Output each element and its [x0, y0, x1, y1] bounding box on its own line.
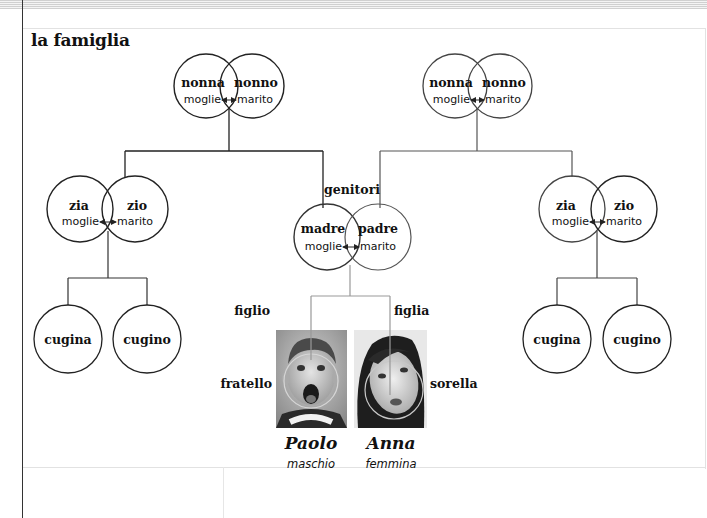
cugino-label: cugino: [123, 332, 171, 347]
padre-circle: [345, 204, 411, 270]
cugino-label: cugino: [613, 332, 661, 347]
moglie-label: moglie: [433, 93, 471, 106]
paolo-name: Paolo: [284, 433, 337, 453]
grandparents-left-couple: nonna nonno moglie marito: [174, 54, 284, 118]
fratello-label: fratello: [220, 376, 272, 391]
cugina-label: cugina: [533, 332, 580, 347]
zio-label: zio: [614, 198, 634, 213]
zio-label: zio: [127, 198, 147, 213]
moglie-label: moglie: [62, 215, 100, 228]
aunt-uncle-right-couple: zia zio moglie marito: [539, 176, 657, 242]
figlio-label: figlio: [234, 303, 270, 318]
nonno-label: nonno: [234, 75, 278, 90]
moglie-label: moglie: [552, 215, 590, 228]
maschio-label: maschio: [287, 457, 335, 471]
sorella-label: sorella: [430, 376, 478, 391]
padre-label: padre: [358, 221, 398, 236]
zia-label: zia: [556, 198, 576, 213]
madre-circle: [294, 204, 360, 270]
marito-label: marito: [117, 215, 153, 228]
cousins-right: cugina cugino: [523, 305, 671, 373]
cousins-left: cugina cugino: [34, 305, 181, 373]
nonna-label: nonna: [429, 75, 473, 90]
nonna-label: nonna: [181, 75, 225, 90]
femmina-label: femmina: [365, 457, 416, 471]
connector-children: [311, 265, 390, 395]
marito-label: marito: [360, 240, 396, 253]
parents-couple: madre padre moglie marito: [294, 204, 411, 270]
zia-label: zia: [69, 198, 89, 213]
moglie-label: moglie: [305, 240, 343, 253]
genitori-label: genitori: [324, 182, 380, 197]
cugina-label: cugina: [44, 332, 91, 347]
madre-label: madre: [301, 221, 346, 236]
figlia-label: figlia: [394, 303, 429, 318]
marito-label: marito: [237, 93, 273, 106]
family-tree: nonna nonno moglie marito nonna nonno mo…: [0, 0, 707, 518]
moglie-label: moglie: [184, 93, 222, 106]
nonno-label: nonno: [482, 75, 526, 90]
marito-label: marito: [485, 93, 521, 106]
grandparents-right-couple: nonna nonno moglie marito: [423, 54, 532, 118]
anna-name: Anna: [365, 433, 416, 453]
marito-label: marito: [606, 215, 642, 228]
connector-left-grandparents: [125, 108, 323, 208]
